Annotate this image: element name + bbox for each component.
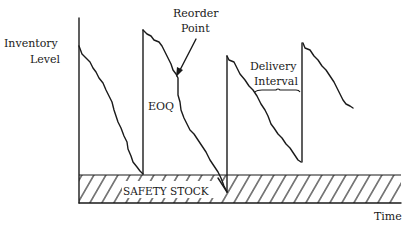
cycle-1-depletion-line — [79, 46, 143, 174]
safety-stock-label: SAFETY STOCK — [123, 185, 209, 197]
reorder-point-label-line1: Reorder — [173, 7, 219, 20]
delivery-interval-label-line1: Delivery — [250, 60, 297, 73]
y-axis-label-line1: Inventory — [4, 37, 59, 50]
delivery-interval-bracket — [255, 89, 300, 92]
cycle-4-depletion-line — [303, 43, 353, 108]
inventory-diagram: SAFETY STOCK Inventory Level Reorder Poi… — [0, 0, 418, 228]
eoq-label: EOQ — [148, 100, 174, 113]
y-axis-label-line2: Level — [30, 53, 61, 66]
delivery-interval-label-line2: Interval — [254, 75, 298, 88]
x-axis-label: Time — [374, 210, 402, 223]
reorder-point-label-line2: Point — [181, 22, 210, 35]
safety-stock-band: SAFETY STOCK — [79, 175, 401, 203]
reorder-point-arrow-icon — [176, 39, 196, 77]
